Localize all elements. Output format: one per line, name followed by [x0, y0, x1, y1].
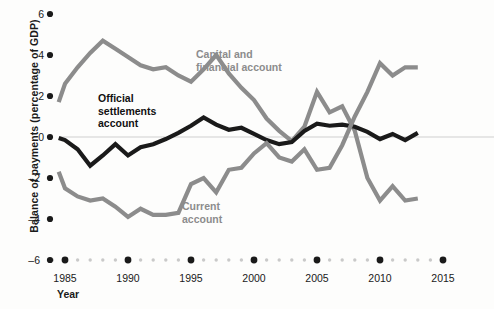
- y-tick-label-0: 0: [22, 131, 44, 143]
- x-tick-label-1995: 1995: [171, 272, 211, 284]
- chart-container: Balance of payments (percentage of GDP) …: [0, 0, 494, 309]
- y-tick-label-6: 6: [22, 8, 44, 20]
- y-axis-dots: [47, 11, 53, 263]
- axis-dot-row: [51, 257, 447, 264]
- x-tick-label-1985: 1985: [45, 272, 85, 284]
- x-tick-label-2010: 2010: [360, 272, 400, 284]
- y-tick-label-m6: –6: [18, 254, 40, 266]
- y-tick-label-m2: –2: [18, 172, 40, 184]
- y-tick-label-m4: –4: [18, 213, 40, 225]
- x-tick-label-2005: 2005: [297, 272, 337, 284]
- series-label-current-account: Current account: [182, 200, 222, 225]
- y-tick-label-4: 4: [22, 49, 44, 61]
- x-tick-label-2015: 2015: [423, 272, 463, 284]
- x-axis-title: Year: [57, 288, 79, 300]
- x-tick-label-1990: 1990: [108, 272, 148, 284]
- y-tick-label-2: 2: [22, 90, 44, 102]
- chart-plot-area: [0, 0, 494, 309]
- series-label-capital-financial-account: Capital and financial account: [196, 48, 282, 73]
- series-label-official-settlements-account: Official settlements account: [98, 92, 156, 130]
- x-tick-label-2000: 2000: [234, 272, 274, 284]
